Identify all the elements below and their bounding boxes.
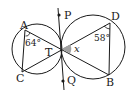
angle-a-label: 64° xyxy=(25,38,41,48)
label-t: T xyxy=(45,46,53,59)
geometry-diagram: A C T D B P Q 64° 58° x xyxy=(0,0,133,96)
label-c: C xyxy=(16,72,24,85)
label-d: D xyxy=(111,10,120,23)
angle-d-label: 58° xyxy=(94,33,110,43)
point-p-dot xyxy=(57,13,60,16)
angle-d-arc xyxy=(104,26,110,29)
chord-ac xyxy=(22,30,25,72)
chord-db xyxy=(109,23,110,75)
label-a: A xyxy=(19,19,29,32)
label-p: P xyxy=(64,9,72,22)
angle-x-label: x xyxy=(74,43,80,54)
label-q: Q xyxy=(67,74,76,87)
label-b: B xyxy=(106,76,114,89)
point-q-dot xyxy=(61,79,64,82)
angle-a-arc xyxy=(26,33,31,36)
